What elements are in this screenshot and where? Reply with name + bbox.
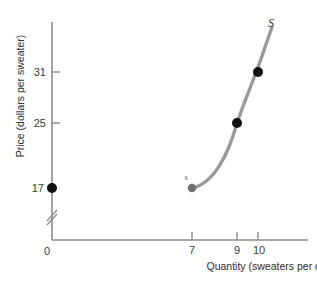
x-axis-title: Quantity (sweaters per day)	[207, 260, 317, 272]
x-tick-label-10: 10	[253, 244, 265, 256]
x-tick-label-7: 7	[189, 244, 195, 256]
origin-label: 0	[44, 245, 50, 257]
y-tick-label-31: 31	[34, 66, 46, 78]
supply-curve-start-label: s	[184, 173, 187, 182]
chart-canvas: 31 25 17 0 7 9 10 S s Quantity (sweaters…	[0, 0, 317, 284]
data-point-31	[253, 67, 263, 77]
data-point-17	[47, 183, 57, 193]
y-tick-label-25: 25	[34, 117, 46, 129]
x-tick-label-9: 9	[234, 244, 240, 256]
supply-curve	[192, 27, 272, 188]
y-tick-label-17: 17	[32, 182, 44, 194]
y-axis-title: Price (dollars per sweater)	[14, 35, 26, 158]
data-point-25	[232, 118, 242, 128]
supply-curve-label: S	[268, 16, 274, 30]
supply-curve-figure: 31 25 17 0 7 9 10 S s Quantity (sweaters…	[0, 0, 317, 284]
curve-start-marker	[188, 184, 196, 192]
